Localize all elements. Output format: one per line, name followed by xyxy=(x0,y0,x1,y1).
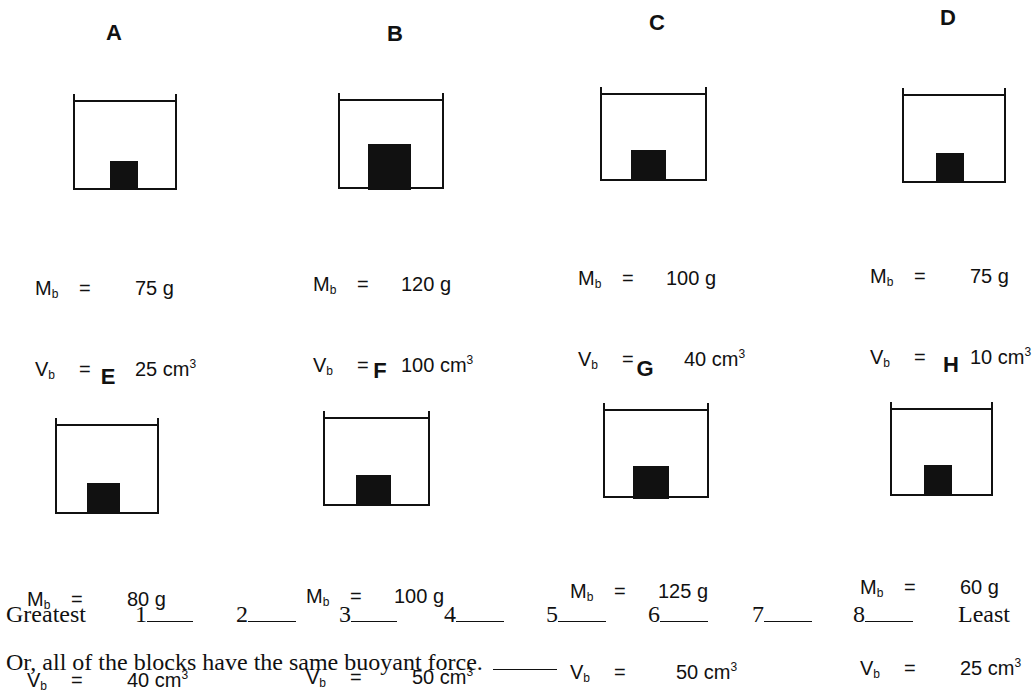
panel-label: H xyxy=(943,354,959,376)
mass-value: 100 g xyxy=(666,266,716,297)
mass-symbol: M xyxy=(578,267,595,289)
volume-value: 10 cm xyxy=(970,346,1024,368)
same-force-blank[interactable] xyxy=(493,649,557,670)
water-line xyxy=(57,424,157,426)
panel-label: G xyxy=(636,358,653,380)
beaker xyxy=(323,411,430,506)
beaker xyxy=(55,418,159,514)
water-line xyxy=(892,408,991,410)
rank-3-blank[interactable] xyxy=(351,601,397,622)
beaker xyxy=(600,87,707,181)
submerged-block xyxy=(87,483,120,514)
block-values: Mb=75 g Vb=25 cm3 xyxy=(35,226,196,438)
submerged-block xyxy=(633,466,669,499)
block-values: Mb=75 g Vb=10 cm3 xyxy=(870,214,1031,426)
mass-symbol: M xyxy=(35,277,52,299)
volume-symbol: V xyxy=(870,346,883,368)
mass-value: 75 g xyxy=(958,264,1009,295)
beaker xyxy=(890,402,993,496)
rank-slot-2: 2 xyxy=(236,600,296,628)
rank-slot-7: 7 xyxy=(752,600,812,628)
mass-value: 120 g xyxy=(401,272,451,303)
submerged-block xyxy=(356,475,391,506)
volume-symbol: V xyxy=(570,661,583,683)
volume-symbol: V xyxy=(860,657,873,679)
mass-symbol: M xyxy=(860,576,877,598)
volume-value: 100 cm xyxy=(401,354,467,376)
volume-value: 50 cm xyxy=(676,661,730,683)
panel-label: A xyxy=(106,22,122,44)
mass-symbol: M xyxy=(570,580,587,602)
rank-slot-3: 3 xyxy=(339,600,397,628)
water-line xyxy=(602,93,705,95)
rank-1-blank[interactable] xyxy=(147,601,193,622)
submerged-block xyxy=(924,465,952,496)
mass-value: 75 g xyxy=(123,276,174,307)
water-line xyxy=(340,99,442,101)
rank-8-blank[interactable] xyxy=(865,601,913,622)
water-line xyxy=(75,100,175,102)
rank-6-blank[interactable] xyxy=(660,601,708,622)
rank-slot-8: 8 xyxy=(853,600,913,628)
rank-2-blank[interactable] xyxy=(248,601,296,622)
rank-slot-5: 5 xyxy=(546,600,606,628)
rank-5-blank[interactable] xyxy=(558,601,606,622)
volume-symbol: V xyxy=(578,348,591,370)
panel-label: C xyxy=(649,12,665,34)
rank-4-blank[interactable] xyxy=(456,601,504,622)
rank-7-blank[interactable] xyxy=(764,601,812,622)
rank-slot-1: 1 xyxy=(135,600,193,628)
greatest-label: Greatest xyxy=(6,600,86,628)
water-line xyxy=(325,417,428,419)
block-values: Mb=120 g Vb=100 cm3 xyxy=(313,222,473,434)
panel-label: D xyxy=(940,7,956,29)
least-label: Least xyxy=(958,600,1010,628)
beaker xyxy=(73,94,177,190)
beaker xyxy=(902,88,1006,183)
mass-symbol: M xyxy=(306,585,323,607)
panel-label: E xyxy=(101,366,116,388)
mass-symbol: M xyxy=(313,273,330,295)
volume-symbol: V xyxy=(313,354,326,376)
volume-value: 25 cm xyxy=(960,657,1014,679)
mass-value: 100 g xyxy=(394,584,444,615)
submerged-block xyxy=(368,144,411,190)
water-line xyxy=(904,94,1004,96)
block-values: Mb=100 g Vb=40 cm3 xyxy=(578,216,745,428)
submerged-block xyxy=(110,161,138,190)
rank-slot-6: 6 xyxy=(648,600,708,628)
beaker xyxy=(603,403,709,498)
mass-symbol: M xyxy=(870,265,887,287)
water-line xyxy=(605,409,707,411)
beaker xyxy=(338,93,444,189)
volume-value: 25 cm xyxy=(135,358,189,380)
submerged-block xyxy=(936,153,964,183)
rank-slot-4: 4 xyxy=(444,600,504,628)
submerged-block xyxy=(631,150,666,181)
volume-value: 40 cm xyxy=(684,348,738,370)
panel-label: B xyxy=(387,23,403,45)
volume-symbol: V xyxy=(35,358,48,380)
same-force-question: Or, all of the blocks have the same buoy… xyxy=(6,648,557,676)
panel-label: F xyxy=(373,360,386,382)
